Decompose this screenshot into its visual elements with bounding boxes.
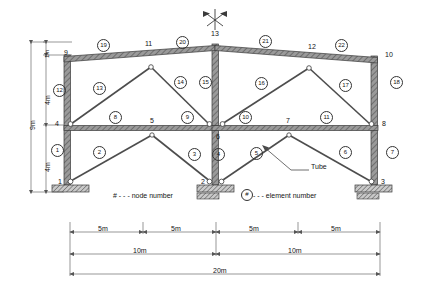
node-label-3: 3 [381, 178, 385, 185]
element-label-13: 13 [93, 82, 106, 95]
member-mid-chord-left [64, 126, 218, 131]
element-label-3: 3 [188, 148, 201, 161]
element-label-17: 17 [339, 79, 352, 92]
element-label-6: 6 [339, 146, 352, 159]
vdim-label-1m: 1m [44, 50, 50, 58]
node-label-10: 10 [385, 51, 393, 58]
node-label-1: 1 [58, 178, 62, 185]
hdim-label-5m-3: 5m [249, 225, 259, 232]
joint-lower-right-apex [287, 133, 291, 137]
legend-hatch-swatch-right [357, 193, 379, 199]
element-legend-marker: # [241, 189, 253, 201]
hdim-label-20m: 20m [213, 267, 227, 274]
joint-node-4 [68, 122, 73, 127]
foundation-pads [52, 185, 392, 192]
diagonal-element-6 [289, 135, 372, 182]
node-label-6: 6 [216, 133, 220, 140]
legend-hatch-swatch-left [197, 193, 219, 199]
joint-lower-left-apex [150, 133, 154, 137]
element-label-11: 11 [320, 111, 333, 124]
joint-markers [68, 65, 374, 184]
node-label-11: 11 [145, 40, 152, 47]
element-label-7: 7 [386, 146, 399, 159]
element-label-22: 22 [335, 39, 348, 52]
node-number-legend-label: # - - - node number [113, 192, 173, 199]
foundation-pad-node-2 [197, 185, 234, 192]
member-right-column [371, 56, 378, 185]
element-label-2: 2 [93, 146, 106, 159]
hdim-label-5m-1: 5m [98, 225, 108, 232]
joint-node-8 [369, 122, 374, 127]
element-label-5: 5 [250, 147, 263, 160]
element-label-15: 15 [199, 76, 212, 89]
diagonal-element-2 [69, 135, 152, 182]
element-label-16: 16 [255, 77, 268, 90]
node-label-2: 2 [201, 178, 205, 185]
element-label-18: 18 [390, 76, 403, 89]
member-left-column [64, 55, 71, 185]
element-label-9: 9 [181, 111, 194, 124]
node-label-7: 7 [286, 117, 290, 124]
node-label-13: 13 [211, 30, 219, 37]
element-label-4: 4 [212, 148, 225, 161]
load-symbol-icon [203, 9, 227, 30]
node-label-12: 12 [308, 43, 316, 50]
foundation-pad-node-3 [355, 185, 392, 192]
joint-node-6-left [207, 122, 212, 127]
joint-node-2-left [207, 179, 212, 184]
tube-annotation-label: Tube [311, 163, 327, 170]
vdim-label-4m-lower: 4m [44, 162, 51, 172]
element-label-14: 14 [174, 76, 187, 89]
node-label-8: 8 [382, 120, 386, 127]
joint-node-1 [68, 179, 73, 184]
vdim-label-9m: 9m [29, 120, 36, 130]
joint-node-11 [149, 65, 154, 70]
node-label-5: 5 [150, 117, 154, 124]
member-top-rafter-left [64, 46, 215, 63]
figure-canvas: 1 2 3 4 5 6 7 8 9 10 11 12 13 1 2 3 4 5 … [0, 0, 425, 286]
hdim-label-5m-2: 5m [171, 225, 181, 232]
element-label-1: 1 [51, 144, 64, 157]
element-label-20: 20 [176, 36, 189, 49]
hdim-label-10m-2: 10m [288, 247, 302, 254]
element-label-19: 19 [97, 39, 110, 52]
member-center-column [212, 44, 219, 185]
structural-frame-drawing [0, 0, 425, 286]
hdim-label-10m-1: 10m [133, 247, 147, 254]
joint-node-6-right [220, 122, 225, 127]
joint-node-3 [369, 179, 374, 184]
joint-node-2-right [219, 179, 224, 184]
hdim-label-5m-4: 5m [331, 225, 341, 232]
diagonal-element-3 [152, 135, 211, 182]
node-label-4: 4 [55, 120, 59, 127]
member-mid-chord-right [212, 126, 378, 131]
diagonal-element-16 [222, 68, 309, 124]
element-label-10: 10 [239, 111, 252, 124]
element-label-12: 12 [53, 84, 66, 97]
node-label-9: 9 [64, 49, 68, 56]
joint-node-12 [307, 66, 312, 71]
member-top-rafter-right [215, 46, 378, 64]
element-number-legend-label: - - - element number [253, 192, 316, 199]
vdim-label-4m-upper: 4m [44, 95, 51, 105]
element-label-21: 21 [259, 35, 272, 48]
diagonal-element-17 [309, 68, 370, 124]
element-label-8: 8 [109, 111, 122, 124]
foundation-pad-node-1 [52, 185, 89, 192]
